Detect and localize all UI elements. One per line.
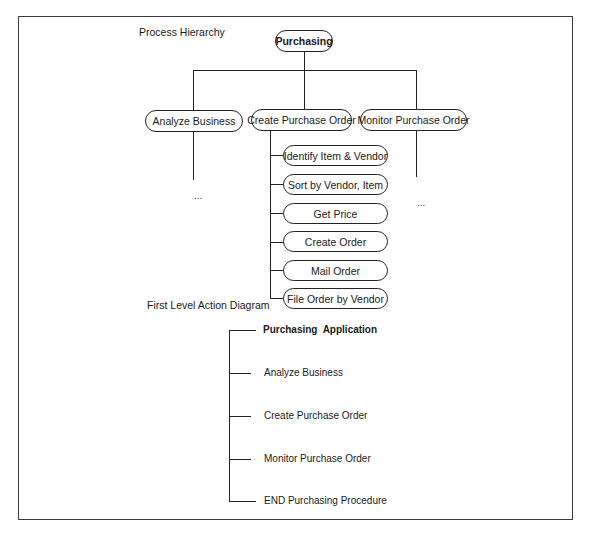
connector-analyze-down [193, 132, 194, 180]
node-mail-order: Mail Order [283, 260, 388, 281]
action-create-purchase-order: Create Purchase Order [264, 410, 367, 421]
connector-monitor-down [416, 131, 417, 177]
node-file-order-by-vendor: File Order by Vendor [283, 288, 388, 309]
node-analyze-business: Analyze Business [145, 110, 243, 132]
connector-child-6 [270, 298, 284, 299]
action-diagram-title: First Level Action Diagram [147, 299, 270, 311]
connector-root-down [304, 52, 305, 70]
node-identify-item-vendor: Identify Item & Vendor [283, 145, 388, 166]
action-tick-4 [229, 459, 251, 460]
connector-child-5 [270, 270, 284, 271]
connector-child-3 [270, 213, 284, 214]
connector-child-4 [270, 242, 284, 243]
node-purchasing: Purchasing [275, 30, 333, 52]
action-tick-5 [229, 501, 256, 502]
node-monitor-purchase-order: Monitor Purchase Order [360, 109, 467, 131]
connector-child-1 [270, 155, 284, 156]
node-get-price: Get Price [283, 203, 388, 224]
analyze-ellipsis: ... [194, 190, 202, 201]
process-hierarchy-title: Process Hierarchy [139, 26, 225, 38]
action-end-purchasing-procedure: END Purchasing Procedure [264, 495, 387, 506]
action-tick-1 [229, 330, 256, 331]
action-tick-2 [229, 373, 251, 374]
action-monitor-purchase-order: Monitor Purchase Order [264, 453, 371, 464]
action-tick-3 [229, 416, 251, 417]
action-analyze-business: Analyze Business [264, 367, 343, 378]
node-sort-by-vendor-item: Sort by Vendor, Item [283, 174, 388, 195]
connector-to-create [304, 70, 305, 109]
connector-to-analyze [193, 70, 194, 110]
node-create-order: Create Order [283, 231, 388, 252]
monitor-ellipsis: ... [417, 197, 425, 208]
node-create-purchase-order: Create Purchase Order [251, 109, 352, 131]
connector-create-trunk [270, 131, 271, 299]
connector-child-2 [270, 184, 284, 185]
action-purchasing-application: Purchasing Application [263, 324, 377, 335]
connector-to-monitor [416, 70, 417, 109]
